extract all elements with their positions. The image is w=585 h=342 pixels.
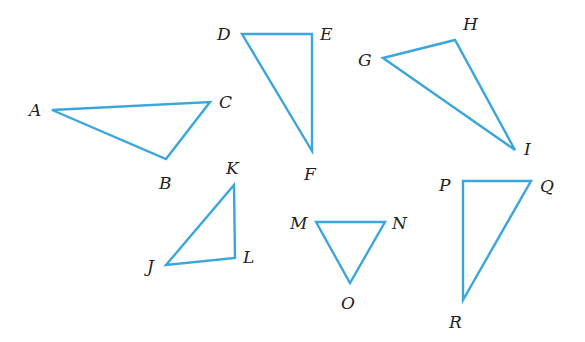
triangle-pqr: PQR — [438, 175, 554, 332]
vertex-label-b: B — [158, 173, 172, 193]
vertex-label-e: E — [319, 24, 333, 44]
vertex-label-h: H — [462, 14, 479, 34]
triangle-outline — [52, 102, 210, 159]
vertex-label-q: Q — [540, 176, 554, 196]
vertex-label-d: D — [216, 24, 231, 44]
triangle-outline — [242, 34, 312, 151]
triangle-outline — [166, 185, 235, 265]
triangle-mno: MNO — [289, 213, 408, 313]
triangle-outline — [463, 181, 531, 300]
triangle-abc: ACB — [27, 92, 232, 193]
vertex-label-l: L — [242, 247, 254, 267]
vertex-label-o: O — [341, 293, 355, 313]
vertex-label-r: R — [448, 312, 462, 332]
triangle-outline — [316, 222, 385, 283]
vertex-label-i: I — [523, 139, 531, 159]
vertex-label-f: F — [303, 164, 317, 184]
triangles-canvas: ACBDEFGHIKLJMNOPQR — [0, 0, 585, 342]
vertex-label-g: G — [358, 50, 372, 70]
triangle-ghi: GHI — [358, 14, 531, 159]
vertex-label-k: K — [225, 158, 240, 178]
vertex-label-c: C — [219, 92, 232, 112]
vertex-label-n: N — [391, 213, 408, 233]
vertex-label-m: M — [289, 213, 308, 233]
triangle-outline — [383, 40, 515, 150]
vertex-label-p: P — [438, 175, 451, 195]
vertex-label-j: J — [144, 256, 155, 276]
vertex-label-a: A — [27, 100, 41, 120]
triangles-figure: ACBDEFGHIKLJMNOPQR — [0, 0, 585, 342]
